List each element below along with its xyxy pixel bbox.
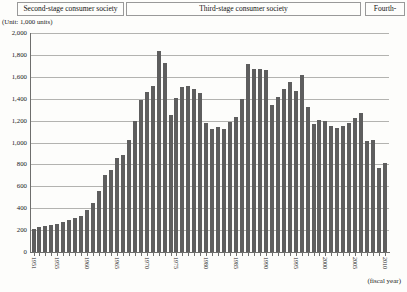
bar-2003 xyxy=(341,126,345,252)
x-tick xyxy=(373,253,374,256)
x-tick xyxy=(147,253,148,256)
x-tick-label: 1995 xyxy=(291,257,301,275)
x-tick xyxy=(302,253,303,256)
x-tick xyxy=(331,253,332,256)
x-tick xyxy=(45,253,46,256)
x-tick xyxy=(51,253,52,256)
x-tick xyxy=(165,253,166,256)
bar-1994 xyxy=(288,82,292,252)
x-tick xyxy=(194,253,195,256)
x-tick xyxy=(314,253,315,256)
x-tick xyxy=(278,253,279,256)
bar-1988 xyxy=(252,69,256,252)
x-tick xyxy=(39,253,40,256)
y-tick-label: 400 xyxy=(0,204,27,212)
x-tick xyxy=(290,253,291,256)
bar-1971 xyxy=(151,86,155,252)
bar-2004 xyxy=(347,123,351,252)
gridline xyxy=(30,33,389,34)
bar-1993 xyxy=(282,89,286,252)
bar-1965 xyxy=(115,158,119,252)
bar-1973 xyxy=(163,63,167,252)
x-tick xyxy=(308,253,309,256)
x-tick xyxy=(385,253,386,256)
x-tick xyxy=(153,253,154,256)
bar-1963 xyxy=(103,175,107,252)
bar-1991 xyxy=(270,105,274,252)
gridline xyxy=(30,99,389,100)
x-tick xyxy=(236,253,237,256)
bar-1975 xyxy=(174,98,178,252)
x-tick xyxy=(212,253,213,256)
bar-1976 xyxy=(180,87,184,252)
x-tick xyxy=(367,253,368,256)
x-tick xyxy=(230,253,231,256)
bar-1967 xyxy=(127,140,131,252)
gridline xyxy=(30,55,389,56)
x-tick xyxy=(248,253,249,256)
bar-1980 xyxy=(204,123,208,252)
bar-1974 xyxy=(169,115,173,252)
bar-2002 xyxy=(335,128,339,252)
bar-1964 xyxy=(109,170,113,252)
bar-1987 xyxy=(246,64,250,252)
bar-2000 xyxy=(323,121,327,252)
x-tick xyxy=(81,253,82,256)
x-tick-label: 1965 xyxy=(112,257,122,275)
stage-band-second: Second-stage consumer society xyxy=(17,2,124,16)
x-tick xyxy=(123,253,124,256)
bar-1981 xyxy=(210,129,214,252)
x-tick xyxy=(99,253,100,256)
x-tick-label: 2005 xyxy=(350,257,360,275)
x-tick xyxy=(218,253,219,256)
x-tick xyxy=(117,253,118,256)
x-tick-label: 1990 xyxy=(261,257,271,275)
bar-2006 xyxy=(359,113,363,252)
gridline xyxy=(30,77,389,78)
stage-band-third: Third-stage consumer society xyxy=(126,2,361,16)
x-tick xyxy=(135,253,136,256)
unit-label: (Unit: 1,000 units) xyxy=(2,18,52,25)
y-axis-line xyxy=(30,33,31,253)
x-tick xyxy=(63,253,64,256)
x-tick-label: 1970 xyxy=(142,257,152,275)
bar-2010 xyxy=(383,163,387,252)
x-tick xyxy=(176,253,177,256)
fiscal-year-label: (fiscal year) xyxy=(367,277,401,285)
bar-2005 xyxy=(353,118,357,252)
bar-2001 xyxy=(329,126,333,252)
x-tick xyxy=(272,253,273,256)
bar-2009 xyxy=(377,168,381,252)
x-tick xyxy=(224,253,225,256)
bar-1961 xyxy=(91,203,95,252)
bar-1996 xyxy=(300,75,304,252)
y-tick-label: 1,400 xyxy=(0,95,27,103)
x-tick xyxy=(69,253,70,256)
x-tick xyxy=(57,253,58,256)
bar-1982 xyxy=(216,127,220,252)
gridline xyxy=(30,121,389,122)
x-tick xyxy=(206,253,207,256)
bar-1960 xyxy=(85,210,89,252)
x-tick xyxy=(266,253,267,256)
bar-1985 xyxy=(234,117,238,252)
bar-1958 xyxy=(73,218,77,252)
y-tick-label: 800 xyxy=(0,160,27,168)
bar-1977 xyxy=(186,86,190,252)
x-tick xyxy=(93,253,94,256)
x-tick xyxy=(171,253,172,256)
plot-area xyxy=(30,33,389,252)
x-axis-line xyxy=(30,252,390,253)
bar-1990 xyxy=(264,70,268,252)
x-tick xyxy=(254,253,255,256)
x-tick xyxy=(337,253,338,256)
x-tick-label: 1985 xyxy=(231,257,241,275)
x-tick xyxy=(343,253,344,256)
x-tick-label: 2000 xyxy=(320,257,330,275)
x-tick xyxy=(87,253,88,256)
bar-2008 xyxy=(371,140,375,252)
bar-1989 xyxy=(258,69,262,252)
x-tick xyxy=(34,253,35,256)
x-tick xyxy=(355,253,356,256)
bar-1999 xyxy=(317,120,321,252)
